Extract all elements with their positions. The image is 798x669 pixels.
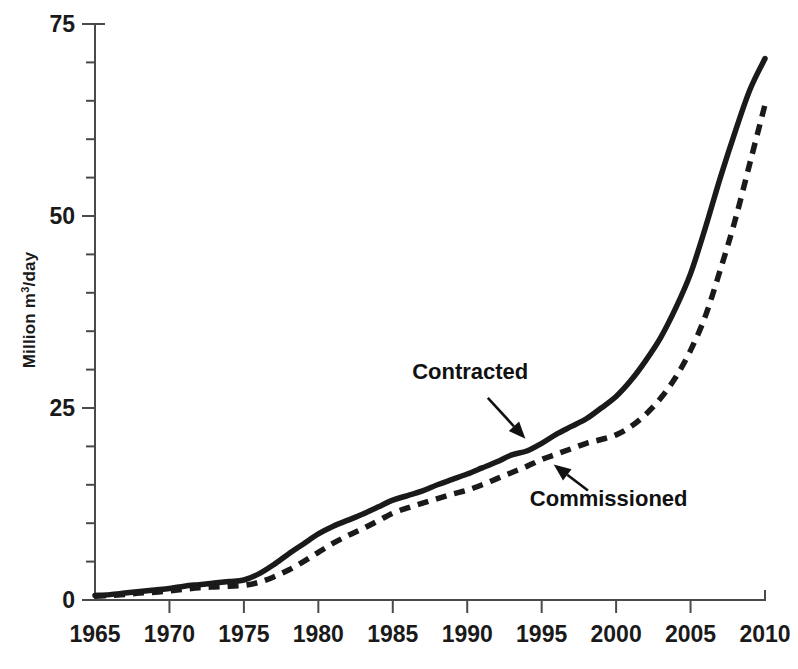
x-axis-tick-labels: 1965197019751980198519901995200020052010 <box>69 621 790 647</box>
annotation-arrowhead-commissioned <box>554 465 572 481</box>
plot-area: 0255075 19651970197519801985199019952000… <box>0 0 798 669</box>
annotation-label-commissioned: Commissioned <box>530 486 688 511</box>
y-axis-line <box>95 24 105 600</box>
y-tick-label-75: 75 <box>49 11 75 37</box>
series-line-contracted <box>95 59 765 596</box>
axes <box>95 24 765 600</box>
x-tick-label-2000: 2000 <box>591 621 642 647</box>
x-tick-label-1995: 1995 <box>516 621 567 647</box>
series-line-commissioned <box>95 105 765 597</box>
x-tick-label-1985: 1985 <box>367 621 418 647</box>
x-tick-label-1975: 1975 <box>218 621 269 647</box>
x-tick-label-1990: 1990 <box>442 621 493 647</box>
annotation-leader-contracted <box>488 398 514 426</box>
x-axis-ticks <box>169 600 690 613</box>
x-axis-line <box>95 590 765 600</box>
chart-figure: Million m3/day 0255075 19651970197519801… <box>0 0 798 669</box>
data-series-group <box>95 59 765 597</box>
y-tick-label-50: 50 <box>49 203 75 229</box>
y-tick-label-0: 0 <box>62 587 75 613</box>
x-tick-label-1980: 1980 <box>293 621 344 647</box>
y-axis-ticks <box>82 24 95 600</box>
x-tick-label-1970: 1970 <box>144 621 195 647</box>
y-axis-tick-labels: 0255075 <box>49 11 75 613</box>
x-tick-label-2005: 2005 <box>665 621 716 647</box>
y-tick-label-25: 25 <box>49 395 75 421</box>
annotation-label-contracted: Contracted <box>412 359 528 384</box>
x-tick-label-1965: 1965 <box>69 621 120 647</box>
x-tick-label-2010: 2010 <box>739 621 790 647</box>
